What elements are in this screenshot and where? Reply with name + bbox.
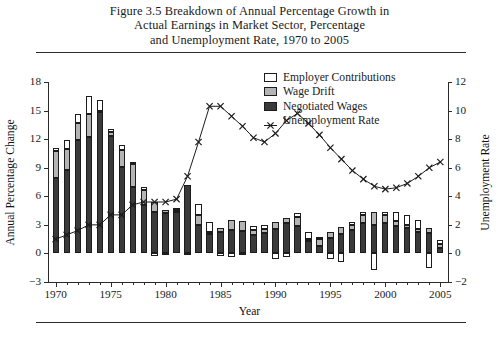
y-axis-left-tick	[44, 282, 48, 283]
x-axis-minor-tick	[418, 282, 419, 285]
x-axis-major-tick	[221, 282, 222, 287]
x-axis-minor-tick	[429, 282, 430, 285]
x-axis-minor-tick	[352, 282, 353, 285]
y-axis-right-tick	[448, 196, 452, 197]
x-axis-tick-label: 2005	[429, 288, 451, 300]
x-axis-minor-tick	[155, 282, 156, 285]
x-axis-minor-tick	[253, 282, 254, 285]
x-axis-minor-tick	[210, 282, 211, 285]
x-axis-tick-label: 2000	[374, 288, 396, 300]
unemployment-rate-x-marker	[239, 123, 245, 129]
unemployment-rate-x-marker	[294, 110, 300, 116]
y-axis-right-title: Unemployment Rate	[477, 82, 493, 282]
caption-divider-top	[36, 52, 466, 53]
x-axis-minor-tick	[89, 282, 90, 285]
unemployment-rate-x-marker	[415, 173, 421, 179]
y-axis-right-tick	[448, 82, 452, 83]
x-axis-minor-tick	[319, 282, 320, 285]
y-axis-right-tick	[448, 139, 452, 140]
y-axis-right-tick	[448, 225, 452, 226]
y-axis-right-tick-label: 6	[455, 161, 461, 173]
x-axis-minor-tick	[363, 282, 364, 285]
x-axis-minor-tick	[297, 282, 298, 285]
unemployment-rate-x-marker	[53, 236, 59, 242]
y-axis-left-tick-label: 0	[0, 246, 41, 258]
x-axis-major-tick	[111, 282, 112, 287]
x-axis-minor-tick	[100, 282, 101, 285]
y-axis-right-title-text: Unemployment Rate	[479, 134, 492, 230]
unemployment-rate-x-marker	[173, 196, 179, 202]
unemployment-rate-x-marker	[305, 120, 311, 126]
unemployment-rate-x-marker	[184, 173, 190, 179]
figure-divider-bottom	[36, 322, 466, 323]
x-axis-major-tick	[275, 282, 276, 287]
y-axis-right-tick	[448, 111, 452, 112]
y-axis-left-tick-label: −3	[0, 275, 41, 287]
y-axis-left-tick-label: 18	[0, 75, 41, 87]
x-axis-minor-tick	[264, 282, 265, 285]
unemployment-rate-x-marker	[327, 145, 333, 151]
y-axis-right-tick-label: 10	[455, 104, 466, 116]
x-axis-minor-tick	[341, 282, 342, 285]
legend-swatch-employer-contributions-icon	[264, 73, 277, 82]
x-axis-tick-label: 1975	[99, 288, 121, 300]
x-axis-minor-tick	[407, 282, 408, 285]
y-axis-right-tick-label: −2	[455, 275, 467, 287]
figure-3-5: Figure 3.5 Breakdown of Annual Percentag…	[0, 0, 499, 338]
unemployment-rate-x-marker	[261, 139, 267, 145]
x-axis-spine	[48, 282, 448, 283]
caption-line-2: Actual Earnings in Market Sector, Percen…	[0, 18, 499, 32]
y-axis-left-tick-label: 12	[0, 132, 41, 144]
x-axis-minor-tick	[67, 282, 68, 285]
y-axis-right-tick	[448, 168, 452, 169]
y-axis-left-tick-label: 9	[0, 161, 41, 173]
x-axis-minor-tick	[188, 282, 189, 285]
y-axis-left-tick-label: 6	[0, 189, 41, 201]
x-axis-minor-tick	[199, 282, 200, 285]
unemployment-rate-x-marker	[250, 135, 256, 141]
y-axis-right-tick-label: 8	[455, 132, 461, 144]
unemployment-rate-x-marker	[195, 139, 201, 145]
unemployment-rate-x-marker	[272, 130, 278, 136]
x-axis-minor-tick	[122, 282, 123, 285]
y-axis-right-tick-label: 4	[455, 189, 461, 201]
x-axis-title: Year	[0, 305, 499, 318]
x-axis-tick-label: 1995	[319, 288, 341, 300]
x-axis-tick-label: 1980	[154, 288, 176, 300]
x-axis-major-tick	[56, 282, 57, 287]
x-axis-minor-tick	[243, 282, 244, 285]
y-axis-right-tick-label: 0	[455, 246, 461, 258]
unemployment-rate-x-marker	[349, 167, 355, 173]
x-axis-minor-tick	[78, 282, 79, 285]
y-axis-left-tick-label: 3	[0, 218, 41, 230]
x-axis-tick-label: 1985	[209, 288, 231, 300]
y-axis-right-tick	[448, 282, 452, 283]
x-axis-major-tick	[330, 282, 331, 287]
x-axis-major-tick	[440, 282, 441, 287]
plot-area	[48, 82, 448, 282]
x-axis-tick-label: 1990	[264, 288, 286, 300]
y-axis-right-tick-label: 12	[455, 75, 466, 87]
caption-line-3: and Unemployment Rate, 1970 to 2005	[0, 33, 499, 47]
unemployment-rate-x-marker	[64, 232, 70, 238]
x-axis-minor-tick	[144, 282, 145, 285]
unemployment-rate-x-marker	[338, 156, 344, 162]
x-axis-minor-tick	[286, 282, 287, 285]
unemployment-rate-x-marker	[437, 159, 443, 165]
unemployment-rate-x-marker	[426, 165, 432, 171]
x-axis-minor-tick	[308, 282, 309, 285]
y-axis-right-tick-label: 2	[455, 218, 461, 230]
figure-caption: Figure 3.5 Breakdown of Annual Percentag…	[0, 4, 499, 47]
caption-line-1: Figure 3.5 Breakdown of Annual Percentag…	[0, 4, 499, 18]
unemployment-rate-line	[48, 82, 448, 282]
unemployment-rate-x-marker	[404, 180, 410, 186]
unemployment-rate-x-marker	[360, 176, 366, 182]
x-axis-major-tick	[166, 282, 167, 287]
unemployment-rate-x-marker	[283, 117, 289, 123]
x-axis-minor-tick	[396, 282, 397, 285]
x-axis-tick-label: 1970	[45, 288, 67, 300]
unemployment-rate-x-marker	[316, 132, 322, 138]
unemployment-rate-x-marker	[371, 183, 377, 189]
x-axis-minor-tick	[133, 282, 134, 285]
y-axis-left-tick-label: 15	[0, 104, 41, 116]
